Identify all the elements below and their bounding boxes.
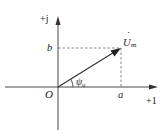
real-axis-arrow-icon xyxy=(149,85,158,90)
origin-label: O xyxy=(45,88,53,100)
angle-arc xyxy=(71,79,73,87)
phasor-diagram: +j +1 O b a U · m ψ u xyxy=(0,0,168,140)
imag-axis-label: +j xyxy=(40,13,48,24)
phasor-vector xyxy=(58,48,121,87)
imag-axis-arrow-icon xyxy=(56,16,61,25)
phasor-arrow-icon xyxy=(111,48,122,57)
angle-label: ψ u xyxy=(76,76,86,88)
imag-axis xyxy=(56,16,61,130)
phasor-dot: · xyxy=(127,27,130,38)
phasor-label: U · m xyxy=(123,27,137,49)
imag-component-label: b xyxy=(47,42,52,53)
real-component-label: a xyxy=(118,89,123,100)
real-axis-label: +1 xyxy=(146,95,157,106)
phasor-subscript: m xyxy=(131,41,137,49)
